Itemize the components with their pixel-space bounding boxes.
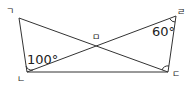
angle-arc-top-right xyxy=(170,19,175,22)
label-top-left: ㄱ xyxy=(6,6,14,16)
label-bottom-left: ㄴ xyxy=(17,74,25,84)
angle-label-bottom-left: 100° xyxy=(27,52,58,67)
label-top-right: ㄹ xyxy=(177,7,185,17)
label-intersection: ㅁ xyxy=(92,32,100,42)
label-bottom-right: ㄷ xyxy=(172,69,180,79)
segment-top-left-to-bottom-left xyxy=(19,18,27,72)
angle-label-top-right: 60° xyxy=(152,24,175,39)
geometry-diagram: ㄱ ㄴ ㄷ ㄹ ㅁ 100° 60° xyxy=(0,0,196,90)
